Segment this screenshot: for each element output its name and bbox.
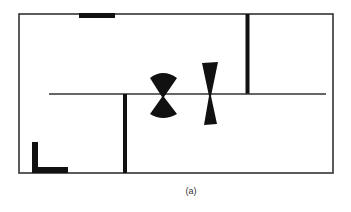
wall-upper-right (246, 14, 250, 94)
floor-plan-diagram (0, 0, 351, 212)
figure-caption: (a) (176, 186, 206, 196)
l-marker-icon (32, 142, 68, 173)
top-bar-marker (79, 13, 115, 18)
bowtie-wide-icon (150, 73, 177, 118)
wall-lower-middle (123, 94, 127, 173)
